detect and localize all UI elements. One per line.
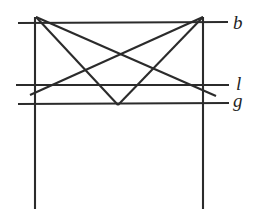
line-label-b: b — [233, 13, 243, 32]
line-label-g: g — [233, 91, 243, 110]
figure-canvas: b l g — [0, 0, 265, 218]
line-g — [18, 103, 229, 104]
vee-right-arm — [118, 17, 203, 105]
line-figure-svg — [0, 0, 265, 218]
diagonal-right-apex-to-lower-left — [30, 17, 203, 95]
